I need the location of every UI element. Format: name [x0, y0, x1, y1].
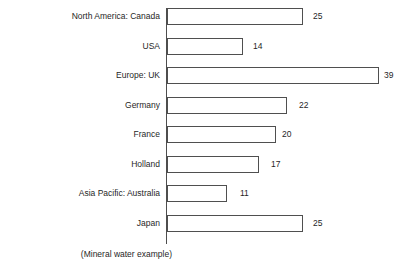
bar-value-label: 25: [313, 218, 322, 229]
bar-row: Europe: UK 39: [0, 67, 405, 97]
bar-row: USA 14: [0, 38, 405, 68]
bar: [167, 126, 276, 143]
bar-value-label: 25: [313, 11, 322, 22]
bar: [167, 67, 379, 84]
bar: [167, 156, 259, 173]
bar-chart: North America: Canada 25 USA 14 Europe: …: [0, 0, 405, 267]
chart-title: [0, 0, 405, 2]
bar-row: Japan 25: [0, 215, 405, 245]
bar-value-label: 14: [253, 41, 262, 52]
bar-value-label: 20: [282, 129, 291, 140]
bar-value-label: 11: [240, 188, 249, 199]
category-label: Germany: [0, 100, 160, 110]
bar-row: Germany 22: [0, 97, 405, 127]
category-label: Asia Pacific: Australia: [0, 188, 160, 198]
bar-row: Holland 17: [0, 156, 405, 186]
bar: [167, 215, 303, 232]
category-label: Europe: UK: [0, 70, 160, 80]
bar-value-label: 17: [271, 159, 280, 170]
bar-value-label: 39: [384, 70, 393, 81]
category-label: Japan: [0, 218, 160, 228]
bar: [167, 185, 227, 202]
category-label: Holland: [0, 159, 160, 169]
plot-area: North America: Canada 25 USA 14 Europe: …: [0, 8, 405, 248]
bar-row: North America: Canada 25: [0, 8, 405, 38]
bar: [167, 97, 287, 114]
bar-row: Asia Pacific: Australia 11: [0, 185, 405, 215]
bar: [167, 38, 243, 55]
category-label: USA: [0, 41, 160, 51]
category-label: France: [0, 129, 160, 139]
bar-row: France 20: [0, 126, 405, 156]
bar: [167, 8, 303, 25]
category-label: North America: Canada: [0, 11, 160, 21]
chart-footnote: (Mineral water example): [0, 249, 172, 260]
bar-value-label: 22: [299, 100, 308, 111]
